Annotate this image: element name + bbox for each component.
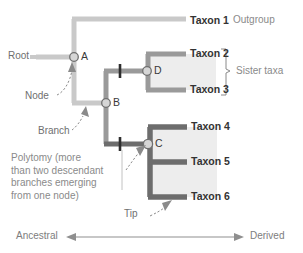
phylogenetic-tree-figure: Taxon 1 Outgroup Taxon 2 Taxon 3 Sister … [0,0,303,253]
polytomy-caption-line-3: branches emerging [11,177,103,190]
node-letter-a: A [81,51,88,62]
node-letter-c: C [155,138,163,149]
branch-annotation-label: Branch [38,126,70,136]
tip-annotation-label: Tip [124,209,138,219]
polytomy-leader-arrowhead [136,145,146,156]
node-letter-d: D [154,65,162,76]
polytomy-caption: Polytomy (more than two descendant branc… [11,152,103,202]
outgroup-label: Outgroup [233,15,275,25]
taxon-label-taxon6: Taxon 6 [191,191,230,202]
taxon-label-taxon4: Taxon 4 [191,121,230,132]
taxon-label-taxon5: Taxon 5 [191,156,230,167]
node-circle-b [102,99,111,108]
taxon-label-taxon1: Taxon 1 [190,15,229,26]
taxon-label-taxon3: Taxon 3 [190,84,229,95]
node-letter-b: B [113,97,120,108]
branch-leader-arrowhead [81,106,89,117]
branch-leader-line [72,116,83,130]
polytomy-caption-line-4: from one node) [11,190,103,203]
root-label: Root [8,51,29,61]
node-annotation-label: Node [25,91,49,101]
node-leader-line [57,70,72,95]
node-circle-d [143,67,152,76]
node-circle-a [70,53,79,62]
tip-leader-line [150,208,164,216]
sister-taxa-label: Sister taxa [236,66,283,76]
tip-leader-arrowhead [162,200,172,211]
axis-label-derived: Derived [250,231,284,241]
taxon-label-taxon2: Taxon 2 [190,48,229,59]
polytomy-caption-line-2: than two descendant [11,165,103,178]
axis-arrowhead-right [234,233,244,241]
axis-label-ancestral: Ancestral [16,231,58,241]
polytomy-caption-line-1: Polytomy (more [11,152,103,165]
axis-arrowhead-left [66,233,76,241]
